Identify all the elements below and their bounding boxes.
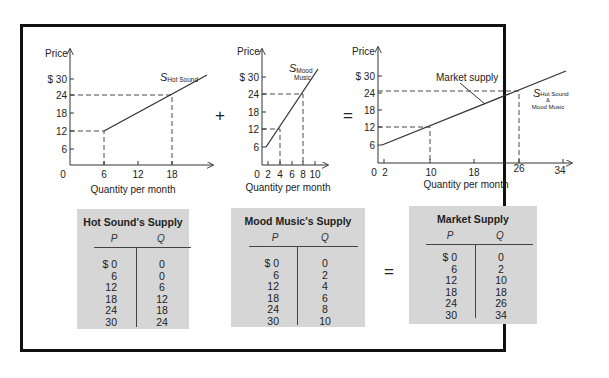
svg-text:8: 8 [300, 169, 306, 180]
svg-text:6: 6 [101, 169, 107, 180]
curve-label: SHot Sound [160, 71, 198, 83]
column-divider [297, 246, 298, 325]
equals-operator-tables: = [384, 262, 394, 281]
plus-operator: + [215, 106, 225, 125]
svg-text:6: 6 [61, 144, 67, 155]
table-title: Hot Sound's Supply [77, 216, 189, 228]
curve-label-ampersand: & [546, 97, 550, 103]
svg-text:2: 2 [382, 167, 388, 178]
svg-text:0: 0 [254, 169, 260, 180]
svg-text:10: 10 [425, 167, 437, 178]
table-mood-music-supply: Mood Music's Supply P Q $ 0612 182430 02… [231, 208, 365, 327]
svg-text:24: 24 [364, 88, 376, 99]
x-ticks: 0 2 10 18 26 34 [371, 159, 566, 178]
header-q: Q [151, 233, 171, 244]
svg-text:10: 10 [309, 169, 321, 180]
curve-label: SHot Sound [533, 87, 569, 99]
header-p: P [104, 233, 124, 244]
curve-label: SMood [289, 62, 313, 74]
svg-text:$ 30: $ 30 [356, 71, 376, 82]
header-rule [249, 246, 358, 247]
svg-text:4: 4 [277, 169, 283, 180]
svg-text:18: 18 [248, 107, 260, 118]
svg-text:0: 0 [60, 169, 66, 180]
svg-text:6: 6 [289, 169, 295, 180]
curve-label-line2: Music [294, 74, 312, 81]
svg-text:$ 30: $ 30 [48, 74, 68, 85]
svg-text:26: 26 [513, 163, 525, 174]
guide-lines [70, 95, 172, 165]
svg-text:18: 18 [364, 105, 376, 116]
equals-operator: = [343, 106, 353, 125]
supply-curve-hot-sound [104, 75, 207, 131]
svg-text:24: 24 [248, 89, 260, 100]
callout-leader-line [460, 83, 485, 104]
column-divider [136, 247, 137, 327]
header-rule [426, 244, 533, 245]
chart-mood-music: Price $ 30 24 18 12 6 0 2 4 6 8 10 Quant… [237, 46, 331, 193]
svg-text:12: 12 [248, 124, 260, 135]
q-column: 0210 182634 [488, 252, 514, 321]
column-divider [475, 244, 476, 318]
header-q: Q [315, 232, 335, 243]
svg-text:6: 6 [369, 140, 375, 151]
svg-text:$ 30: $ 30 [240, 72, 260, 83]
header-p: P [265, 232, 285, 243]
header-p: P [440, 230, 460, 241]
svg-text:12: 12 [56, 126, 68, 137]
svg-text:18: 18 [468, 167, 480, 178]
x-axis-label: Quantity per month [423, 179, 508, 190]
header-rule [94, 247, 191, 248]
chart-market: Price $ 30 24 18 12 6 0 2 10 18 26 34 Qu… [352, 46, 572, 190]
y-axis-label: Price [352, 46, 375, 57]
x-ticks: 0 6 12 18 [60, 161, 178, 180]
curve-label-line3: Mood Music [532, 104, 564, 110]
p-column: $ 0612 182430 [431, 252, 457, 321]
chart-hot-sound: Price $ 30 24 18 12 6 0 6 12 18 Quantity… [45, 48, 213, 195]
svg-text:0: 0 [371, 167, 377, 178]
svg-text:6: 6 [253, 142, 259, 153]
svg-text:24: 24 [56, 90, 68, 101]
svg-text:12: 12 [132, 169, 144, 180]
table-hot-sound-supply: Hot Sound's Supply P Q $ 0612 182430 006… [77, 209, 189, 329]
svg-text:18: 18 [166, 169, 178, 180]
p-column: $ 0612 182430 [91, 259, 117, 328]
table-title: Mood Music's Supply [231, 215, 365, 227]
header-q: Q [490, 230, 510, 241]
svg-text:34: 34 [554, 165, 566, 176]
x-ticks: 0 2 4 6 8 10 [254, 161, 321, 180]
x-axis-label: Quantity per month [245, 182, 330, 193]
q-column: 006 121824 [149, 259, 175, 328]
y-axis-label: Price [237, 46, 260, 57]
svg-text:18: 18 [56, 108, 68, 119]
x-axis-label: Quantity per month [90, 184, 175, 195]
p-column: $ 0612 182430 [253, 258, 279, 327]
guide-lines [378, 91, 519, 163]
y-axis-label: Price [45, 48, 68, 59]
table-title: Market Supply [409, 213, 537, 225]
svg-text:12: 12 [364, 122, 376, 133]
table-market-supply: Market Supply P Q $ 0612 182430 0210 182… [409, 206, 537, 324]
q-column: 024 6810 [312, 258, 338, 327]
guide-lines [262, 94, 303, 165]
svg-text:2: 2 [265, 169, 271, 180]
market-supply-callout: Market supply [436, 72, 498, 83]
